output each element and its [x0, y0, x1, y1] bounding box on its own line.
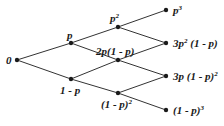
node-root-label: 0	[6, 55, 12, 66]
node-1-minus-p-cubed-label: (1 - p)3	[173, 105, 204, 116]
node-1-minus-p-squared-label: (1 - p)2	[101, 99, 132, 110]
node-p-cubed-label: p3	[173, 5, 182, 16]
node-p-label: p	[67, 30, 73, 41]
node-3p-1-minus-p2-label: 3p (1 - p)2	[173, 71, 218, 82]
node-p-squared-label: p2	[110, 13, 119, 24]
node-3p2-1-minus-p-label: 3p2 (1 - p)	[173, 38, 218, 49]
node-1-minus-p-label: 1 - p	[60, 85, 80, 96]
node-2p-1-minus-p-label: 2p(1 - p)	[96, 46, 135, 57]
